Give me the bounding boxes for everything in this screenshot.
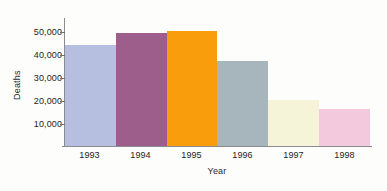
x-axis-tick-label: 1997 [268, 150, 319, 164]
x-axis-tick-label: 1998 [319, 150, 370, 164]
x-axis-tick-labels: 199319941995199619971998 [64, 150, 370, 164]
x-axis-title: Year [64, 166, 370, 176]
y-axis-tick-labels: 10,00020,00030,00040,00050,000 [0, 0, 62, 191]
y-axis-tick-mark [60, 101, 65, 102]
bar-slot [217, 18, 268, 146]
bar-slot [65, 18, 116, 146]
y-axis-tick-label: 10,000 [6, 119, 62, 129]
plot-area [64, 18, 370, 147]
x-axis-tick-label: 1996 [217, 150, 268, 164]
bar-1993[interactable] [65, 45, 116, 146]
y-axis-tick-label: 30,000 [6, 73, 62, 83]
bar-chart-figure: Deaths 10,00020,00030,00040,00050,000 19… [0, 0, 387, 191]
bar-slot [116, 18, 167, 146]
y-axis-tick-label: 40,000 [6, 50, 62, 60]
x-axis-tick-label: 1995 [166, 150, 217, 164]
x-axis-tick-label: 1993 [64, 150, 115, 164]
y-axis-tick-mark [60, 78, 65, 79]
bar-series [65, 18, 370, 146]
bar-1996[interactable] [217, 61, 268, 146]
y-axis-tick-mark [60, 55, 65, 56]
y-axis-tick-mark [60, 32, 65, 33]
bar-slot [268, 18, 319, 146]
y-axis-tick-mark [60, 124, 65, 125]
bar-1995[interactable] [167, 31, 218, 146]
x-axis-tick-label: 1994 [115, 150, 166, 164]
bar-slot [167, 18, 218, 146]
bar-1998[interactable] [319, 109, 370, 146]
bar-1997[interactable] [268, 100, 319, 146]
bar-1994[interactable] [116, 33, 167, 146]
y-axis-tick-label: 20,000 [6, 96, 62, 106]
bar-slot [319, 18, 370, 146]
x-axis-line [62, 146, 372, 147]
y-axis-tick-label: 50,000 [6, 27, 62, 37]
